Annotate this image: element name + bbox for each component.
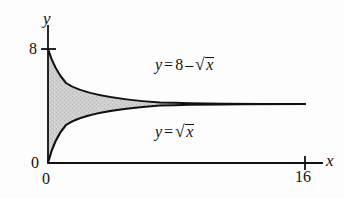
- curve-label-upper: y=8– √ x: [155, 57, 213, 73]
- x-axis-label: x: [326, 152, 334, 169]
- upper-label-radical: √ x: [195, 57, 213, 73]
- lower-label-equals: =: [162, 123, 175, 140]
- lower-label-radical: √ x: [175, 124, 193, 140]
- radical-sign-icon: √: [175, 123, 184, 140]
- y-axis-label: y: [43, 10, 51, 27]
- x-tick-label-16: 16: [295, 169, 311, 185]
- curve-label-lower: y= √ x: [155, 124, 193, 140]
- plot-area: [0, 0, 344, 198]
- radical-sign-icon: √: [195, 56, 204, 73]
- math-figure: y x 8 0 0 16 y=8– √ x y= √ x: [0, 0, 344, 198]
- upper-label-equals: =: [162, 56, 175, 73]
- lower-label-radicand: x: [186, 123, 193, 140]
- upper-label-minus: –: [183, 56, 195, 73]
- y-origin-label: 0: [31, 155, 39, 171]
- upper-label-radicand: x: [206, 56, 213, 73]
- x-origin-label: 0: [42, 171, 50, 187]
- upper-label-constant: 8: [175, 56, 183, 73]
- y-tick-label-8: 8: [29, 41, 37, 57]
